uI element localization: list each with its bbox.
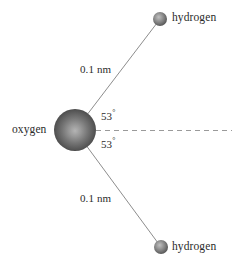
bond-length-top-label: 0.1 nm bbox=[80, 64, 111, 75]
oxygen-atom-sphere bbox=[54, 109, 96, 151]
angle-top-value: 53 bbox=[101, 110, 112, 122]
degree-symbol-bottom: ° bbox=[112, 136, 115, 145]
oxygen-label: oxygen bbox=[12, 124, 46, 136]
hydrogen-bottom-atom-sphere bbox=[154, 240, 168, 254]
bond-oxygen-hydrogen-bottom bbox=[80, 137, 158, 243]
angle-bottom-label: 53° bbox=[101, 139, 116, 150]
hydrogen-bottom-label: hydrogen bbox=[172, 241, 216, 253]
molecule-canvas bbox=[0, 0, 236, 272]
hydrogen-top-label: hydrogen bbox=[172, 12, 216, 24]
water-molecule-diagram: oxygen hydrogen hydrogen 0.1 nm 0.1 nm 5… bbox=[0, 0, 236, 272]
hydrogen-top-atom-sphere bbox=[153, 12, 167, 26]
angle-bottom-value: 53 bbox=[101, 138, 112, 150]
angle-top-label: 53° bbox=[101, 111, 116, 122]
degree-symbol-top: ° bbox=[112, 108, 115, 117]
bond-length-bottom-label: 0.1 nm bbox=[80, 193, 111, 204]
